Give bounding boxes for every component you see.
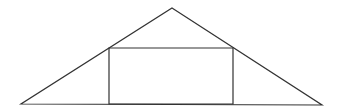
triangle: [21, 8, 322, 105]
inscribed-rectangle-diagram: [0, 0, 340, 111]
diagram-canvas: [0, 0, 340, 111]
inscribed-rectangle: [109, 48, 233, 104]
